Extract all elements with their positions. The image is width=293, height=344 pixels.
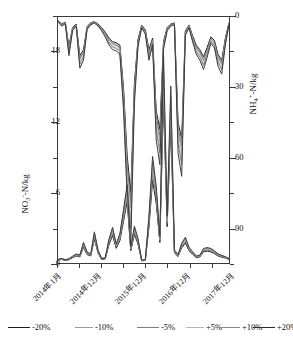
y-axis-left-minor-tickmark: [53, 16, 57, 17]
series-canvas: [58, 17, 229, 263]
legend-label: -5%: [161, 322, 175, 332]
y-axis-right-tickmark: [230, 16, 236, 17]
legend-item[interactable]: -20%: [8, 320, 50, 334]
x-axis-tick-label: 2014年1月: [30, 270, 63, 303]
no3-line-plus20pct: [58, 53, 229, 260]
y-axis-right-tick-label: 30: [235, 82, 244, 91]
legend-line-swatch: [8, 327, 30, 328]
y-axis-left-tickmark: [51, 264, 57, 265]
y-axis-left-title-sub: 3: [24, 197, 31, 200]
nh4-line-minus20pct: [58, 21, 229, 193]
y-axis-right-minor-tickmark: [230, 122, 234, 123]
y-axis-right-minor-tickmark: [230, 51, 234, 52]
y-axis-right-title: NH4+-N/kg: [247, 49, 259, 139]
y-axis-right-tick-label: 60: [235, 153, 244, 162]
y-axis-left-tickmark: [51, 51, 57, 52]
y-axis-right-title-base: NH: [248, 101, 258, 114]
y-axis-right-tickmark: [230, 158, 236, 159]
y-axis-right-tickmark: [230, 87, 236, 88]
nh4-line-plus20pct: [58, 22, 229, 245]
x-axis-tick-label: 2017年12月: [200, 270, 236, 306]
legend-item[interactable]: +5%: [186, 320, 222, 334]
no3-line-minus10pct: [58, 90, 229, 261]
x-axis-tick-label: 2014年12月: [67, 270, 103, 306]
legend-line-swatch: [137, 327, 159, 328]
x-axis-tick-label: 2016年12月: [156, 270, 192, 306]
y-axis-left-tickmark: [51, 193, 57, 194]
legend-item[interactable]: -5%: [137, 320, 175, 334]
y-axis-right-minor-tickmark: [230, 264, 234, 265]
chart-figure: NO3--N/kg NH4+-N/kg 2014年1月2014年12月2015年…: [0, 0, 293, 344]
y-axis-left-minor-tickmark: [53, 87, 57, 88]
legend-item[interactable]: +20%: [253, 320, 293, 334]
y-axis-left-title-base: NO: [20, 201, 30, 214]
x-axis-labels: 2014年1月2014年12月2015年12月2016年12月2017年12月: [0, 268, 293, 314]
legend-line-swatch: [186, 327, 204, 328]
y-axis-right-minor-tickmark: [230, 193, 234, 194]
y-axis-left-title-tail: -N/kg: [20, 174, 30, 195]
no3-line-minus5pct: [58, 84, 229, 261]
nh4-line-minus10pct: [58, 21, 229, 202]
x-axis-tick-label: 2015年12月: [111, 270, 147, 306]
no3-line-plus5pct: [58, 72, 229, 260]
y-axis-left-title-sup: -: [19, 195, 26, 197]
y-axis-left-tickmark: [51, 122, 57, 123]
chart-legend: -20%-10%-5%+5%+10%+20%: [0, 320, 293, 336]
y-axis-right-tick-label: 90: [235, 224, 244, 233]
y-axis-right-title-sup: +: [247, 94, 254, 98]
legend-line-swatch: [218, 327, 240, 328]
legend-item[interactable]: -10%: [75, 320, 113, 334]
y-axis-right-title-sub: 4: [252, 98, 259, 101]
y-axis-right-title-tail: -N/kg: [248, 73, 258, 94]
legend-label: -10%: [95, 322, 113, 332]
plot-area: [57, 16, 230, 264]
y-axis-left-minor-tickmark: [53, 229, 57, 230]
y-axis-left-minor-tickmark: [53, 158, 57, 159]
legend-label: -20%: [32, 322, 50, 332]
y-axis-right-tickmark: [230, 229, 236, 230]
legend-line-swatch: [75, 327, 93, 328]
no3-line-minus20pct: [58, 100, 229, 261]
y-axis-left-title: NO3--N/kg: [19, 149, 31, 239]
no3-line-plus10pct: [58, 65, 229, 260]
legend-label: +20%: [277, 322, 293, 332]
legend-line-swatch: [253, 327, 275, 328]
nh4-line-plus10pct: [58, 21, 229, 229]
